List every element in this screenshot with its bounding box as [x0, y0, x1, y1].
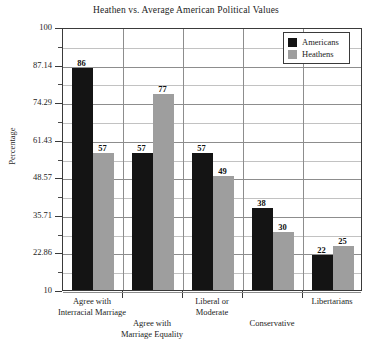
x-axis-category-label: Agree withInterracial Marriage — [36, 296, 148, 317]
y-axis-tick-label: 35.71 — [6, 210, 52, 220]
y-axis-tick — [55, 178, 62, 179]
x-axis-category-label: Conservative — [216, 318, 328, 329]
bar-value-label: 49 — [206, 166, 239, 176]
x-axis-category-line: Liberal or — [156, 296, 268, 307]
y-axis-tick — [55, 28, 62, 29]
legend-item-americans: Americans — [288, 36, 345, 48]
chart-title: Heathen vs. Average American Political V… — [0, 5, 372, 15]
bar-americans-3 — [252, 208, 273, 290]
y-axis-tick-label: 22.86 — [6, 247, 52, 257]
y-axis-tick-label: 87.14 — [6, 60, 52, 70]
legend-label-heathens: Heathens — [302, 49, 334, 59]
bar-heathens-3 — [273, 232, 294, 290]
y-axis-tick — [55, 291, 62, 292]
x-axis-category-line: Agree with — [36, 296, 148, 307]
y-axis-tick-label: 100 — [6, 22, 52, 32]
x-axis-category-label: Liberal orModerate — [156, 296, 268, 317]
legend-item-heathens: Heathens — [288, 48, 345, 60]
chart-legend: Americans Heathens — [283, 32, 350, 64]
y-axis-tick — [55, 253, 62, 254]
x-axis-category-line: Interracial Marriage — [36, 307, 148, 318]
x-axis-category-line: Libertarians — [276, 296, 372, 307]
y-axis-title: Percentage — [7, 111, 17, 181]
legend-label-americans: Americans — [302, 37, 339, 47]
bar-value-label: 22 — [305, 245, 338, 255]
bar-value-label: 25 — [326, 236, 359, 246]
bar-heathens-2 — [213, 176, 234, 290]
y-axis-tick — [55, 141, 62, 142]
y-axis-tick-label: 61.43 — [6, 135, 52, 145]
bar-heathens-1 — [153, 94, 174, 290]
bar-value-label: 57 — [86, 143, 119, 153]
bar-value-label: 77 — [146, 84, 179, 94]
y-axis-tick-label: 74.29 — [6, 97, 52, 107]
x-axis-category-line: Moderate — [156, 307, 268, 318]
bar-americans-0 — [72, 68, 93, 290]
x-axis-category-line: Conservative — [216, 318, 328, 329]
legend-swatch-americans-icon — [288, 38, 297, 47]
x-axis-category-label: Libertarians — [276, 296, 372, 307]
gridline-horizontal — [63, 292, 361, 293]
y-axis-tick — [55, 66, 62, 67]
bar-value-label: 38 — [245, 198, 278, 208]
bar-value-label: 57 — [125, 143, 158, 153]
bar-heathens-0 — [93, 153, 114, 290]
bar-value-label: 86 — [65, 58, 98, 68]
y-axis-tick-label: 10 — [6, 285, 52, 295]
bar-americans-1 — [132, 153, 153, 290]
bar-americans-4 — [312, 255, 333, 290]
legend-swatch-heathens-icon — [288, 50, 297, 59]
y-axis-tick-label: 48.57 — [6, 172, 52, 182]
bar-value-label: 30 — [266, 222, 299, 232]
bar-value-label: 57 — [185, 143, 218, 153]
y-axis-tick — [55, 216, 62, 217]
y-axis-tick — [55, 103, 62, 104]
x-axis-category-line: Agree with — [96, 318, 208, 329]
x-axis-category-label: Agree withMarriage Equality — [96, 318, 208, 339]
x-axis-category-line: Marriage Equality — [96, 329, 208, 340]
